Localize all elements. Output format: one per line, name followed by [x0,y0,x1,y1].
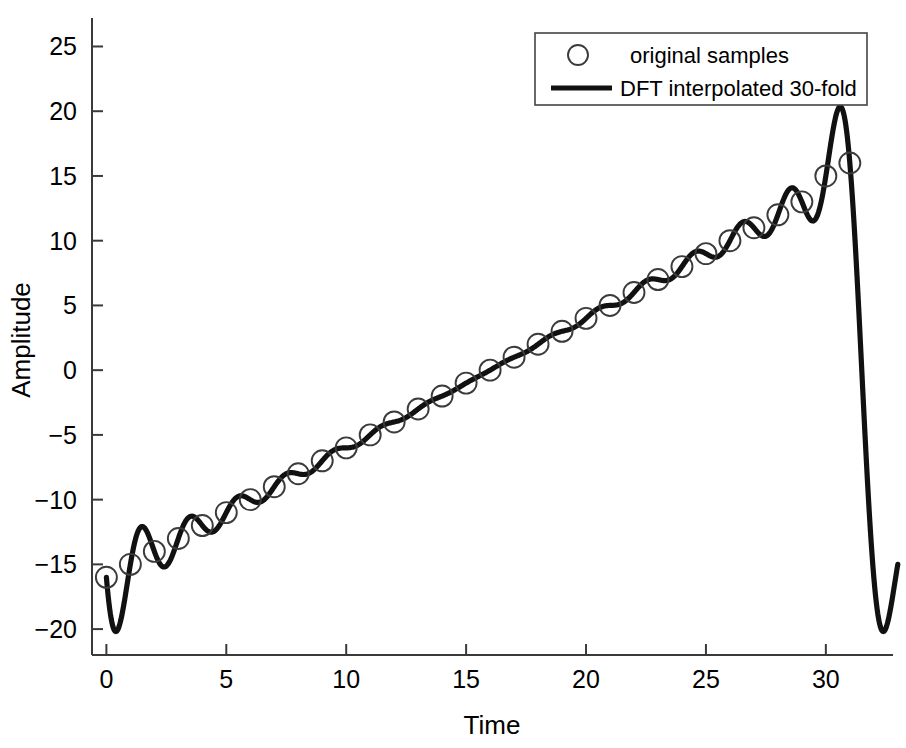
y-tick-label: 25 [49,32,77,60]
dft-interpolated-curve [106,107,897,632]
x-tick-label: 25 [692,665,720,693]
x-tick-label: 5 [219,665,233,693]
y-tick-label: 0 [63,356,77,384]
y-tick-label: −10 [35,486,77,514]
y-tick-label: 15 [49,162,77,190]
legend: original samples DFT interpolated 30-fol… [535,33,867,105]
axis-ticks [92,46,826,655]
original-sample-markers [96,153,860,588]
y-tick-label: 5 [63,291,77,319]
x-axis-title: Time [464,710,521,740]
x-tick-label: 10 [332,665,360,693]
legend-entry-0-label: original samples [630,43,789,68]
x-tick-label: 15 [452,665,480,693]
y-tick-label: −20 [35,615,77,643]
chart-figure: 051015202530−20−15−10−50510152025 Time A… [0,0,906,748]
x-tick-label: 20 [572,665,600,693]
y-tick-label: 10 [49,227,77,255]
x-tick-label: 0 [99,665,113,693]
y-tick-label: −15 [35,550,77,578]
x-tick-label: 30 [812,665,840,693]
plot-canvas: 051015202530−20−15−10−50510152025 Time A… [0,0,906,748]
y-tick-label: 20 [49,97,77,125]
y-tick-label: −5 [48,421,77,449]
axis-lines [92,18,893,655]
legend-entry-1-label: DFT interpolated 30-fold [620,76,857,101]
axis-tick-labels: 051015202530−20−15−10−50510152025 [35,32,840,693]
y-axis-title: Amplitude [6,282,36,398]
